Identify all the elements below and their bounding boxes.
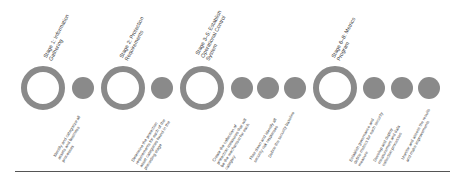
- stage-2-ring: [101, 66, 145, 110]
- stage-1-ring: [21, 66, 65, 110]
- step-3-label: Create the collection of protection meas…: [211, 113, 258, 171]
- stage-3-5-label: Stage 3–5: Establish Operational Control…: [194, 0, 240, 62]
- stage-3-5-ring: [180, 66, 224, 110]
- step-1-label: Identify and categorize all assets and b…: [52, 111, 92, 163]
- step-2-label: Determine the protection requirements fo…: [130, 113, 177, 171]
- stage-1-label: Stage 1: Information Gathering: [42, 1, 82, 62]
- step-2-dot: [151, 77, 173, 99]
- stage-6-8-label: Stage 6–8: Metrics Program: [330, 1, 370, 62]
- step-7-dot: [391, 77, 413, 99]
- baseline-divider: [15, 171, 450, 172]
- step-8-dot: [418, 77, 440, 99]
- stage-2-label: Stage 2: Protection Requirements: [118, 1, 158, 62]
- step-5-dot: [284, 77, 306, 99]
- stage-6-8-ring: [313, 66, 357, 110]
- step-1-dot: [72, 77, 94, 99]
- step-4-dot: [257, 77, 279, 99]
- step-6-dot: [363, 77, 385, 99]
- step-3-dot: [231, 77, 253, 99]
